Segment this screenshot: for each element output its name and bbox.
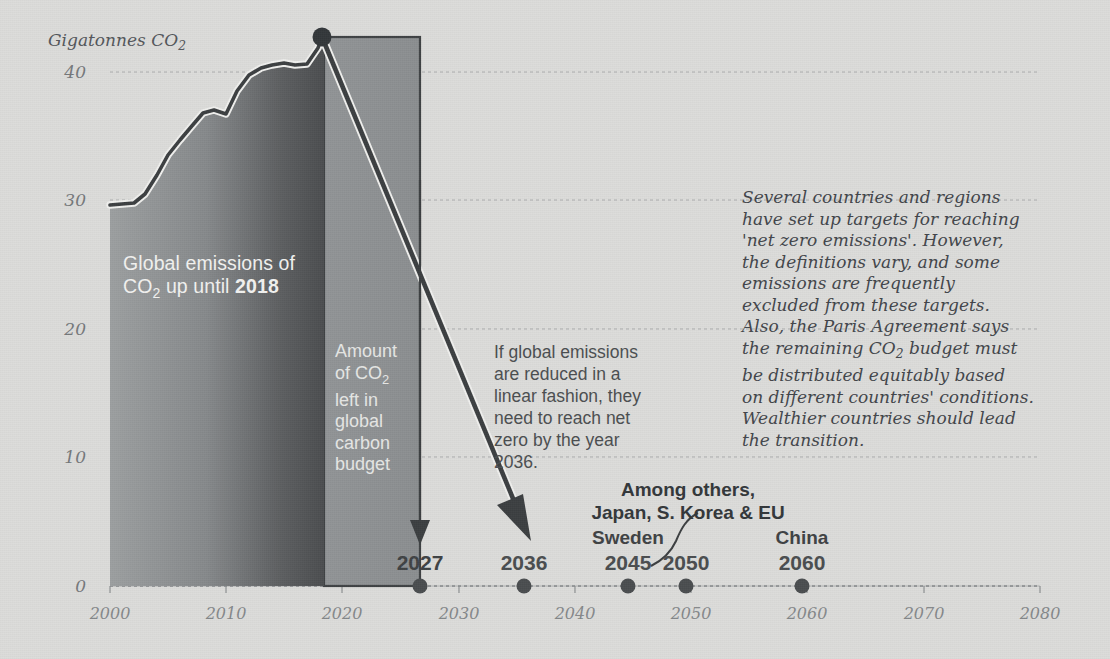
explainer-line8: the remaining CO2 budget must [742, 338, 1034, 366]
x-tick-2040: 2040 [530, 604, 620, 623]
net-zero-explainer-note: Several countries and regions have set u… [742, 187, 1034, 451]
carbon-budget-label-line3: left in [335, 390, 397, 412]
y-axis-title: Gigatonnes CO2 [48, 30, 186, 53]
x-tick-2020: 2020 [297, 604, 387, 623]
milestone-callout-line2: Japan, S. Korea & EU [538, 501, 838, 524]
linear-reduction-note-line2: are reduced in a [494, 363, 641, 385]
carbon-budget-label-line5: carbon [335, 433, 397, 455]
y-tick-10: 10 [26, 447, 86, 467]
historical-co2-text: CO [123, 275, 152, 297]
historical-year-bold: 2018 [235, 275, 279, 297]
linear-reduction-note: If global emissions are reduced in a lin… [494, 341, 641, 473]
explainer-line9: be distributed equitably based [742, 365, 1034, 387]
explainer-line12: the transition. [742, 430, 1034, 452]
milestone-dot-2050 [679, 579, 694, 594]
linear-reduction-note-line5: zero by the year [494, 429, 641, 451]
explainer-line11: Wealthier countries should lead [742, 408, 1034, 430]
linear-reduction-note-line3: linear fashion, they [494, 385, 641, 407]
explainer-line7: Also, the Paris Agreement says [742, 316, 1034, 338]
milestone-country-china: China [722, 527, 882, 549]
carbon-budget-label-line2: of CO2 [335, 363, 397, 390]
y-tick-0: 0 [26, 576, 86, 596]
explainer-line4: the definitions vary, and some [742, 252, 1034, 274]
y-tick-30: 30 [26, 190, 86, 210]
milestone-dot-2060 [795, 579, 810, 594]
x-tick-2030: 2030 [414, 604, 504, 623]
milestone-label-2027[interactable]: 2027 [360, 551, 480, 575]
explainer-co2-text: the remaining CO [742, 338, 896, 358]
milestone-dot-2045 [621, 579, 636, 594]
infographic-canvas: Gigatonnes CO2 40 30 20 10 0 2000 2010 2… [0, 0, 1110, 659]
historical-until-text: up until [160, 275, 235, 297]
explainer-co2-subscript: 2 [896, 347, 904, 361]
x-tick-2060: 2060 [762, 604, 852, 623]
linear-reduction-note-line1: If global emissions [494, 341, 641, 363]
milestone-callout-2050: Among others, Japan, S. Korea & EU [538, 478, 838, 524]
linear-reduction-note-line6: 2036. [494, 451, 641, 473]
milestone-country-sweden: Sweden [548, 527, 708, 549]
explainer-line10: on different countries' conditions. [742, 387, 1034, 409]
x-tick-2010: 2010 [181, 604, 271, 623]
carbon-budget-co2-subscript: 2 [382, 371, 389, 386]
milestone-dot-2027 [413, 579, 428, 594]
milestone-dot-2036 [517, 579, 532, 594]
explainer-line6: excluded from these targets. [742, 295, 1034, 317]
carbon-budget-label-line6: budget [335, 454, 397, 476]
carbon-budget-label-line1: Amount [335, 341, 397, 363]
historical-area-label: Global emissions of CO2 up until 2018 [123, 252, 295, 305]
x-tick-2080: 2080 [995, 604, 1085, 623]
explainer-line3: 'net zero emissions'. However, [742, 230, 1034, 252]
historical-area-label-line2: CO2 up until 2018 [123, 275, 295, 305]
y-tick-20: 20 [26, 319, 86, 339]
explainer-line2: have set up targets for reaching [742, 209, 1034, 231]
x-tick-2070: 2070 [879, 604, 969, 623]
y-tick-40: 40 [26, 62, 86, 82]
carbon-budget-label-line4: global [335, 411, 397, 433]
peak-marker-dot [313, 28, 332, 47]
x-tick-2000: 2000 [65, 604, 155, 623]
milestone-label-2036[interactable]: 2036 [464, 551, 584, 575]
carbon-budget-rect [324, 37, 420, 586]
historical-area-label-line1: Global emissions of [123, 252, 295, 275]
carbon-budget-label: Amount of CO2 left in global carbon budg… [335, 341, 397, 476]
explainer-line5: emissions are frequently [742, 273, 1034, 295]
x-axis-ticks [110, 586, 1040, 593]
carbon-budget-co2-text: of CO [335, 363, 382, 383]
explainer-line1: Several countries and regions [742, 187, 1034, 209]
historical-emissions-area [110, 37, 324, 586]
linear-reduction-arrowhead [497, 494, 531, 541]
linear-reduction-note-line4: need to reach net [494, 407, 641, 429]
milestone-label-2060[interactable]: 2060 [742, 551, 862, 575]
y-axis-title-subscript: 2 [178, 39, 186, 53]
explainer-budget-text: budget must [904, 338, 1018, 358]
milestone-callout-line1: Among others, [538, 478, 838, 501]
milestone-label-2050[interactable]: 2050 [626, 551, 746, 575]
x-tick-2050: 2050 [646, 604, 736, 623]
y-axis-title-text: Gigatonnes CO [48, 30, 178, 50]
